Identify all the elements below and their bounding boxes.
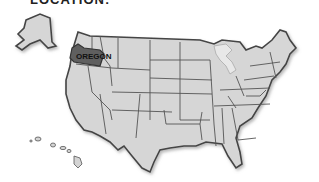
hawaii-shape: [30, 137, 82, 168]
alaska-shape: [16, 14, 56, 50]
us-map: [0, 0, 319, 182]
oregon-label: OREGON: [76, 52, 112, 61]
